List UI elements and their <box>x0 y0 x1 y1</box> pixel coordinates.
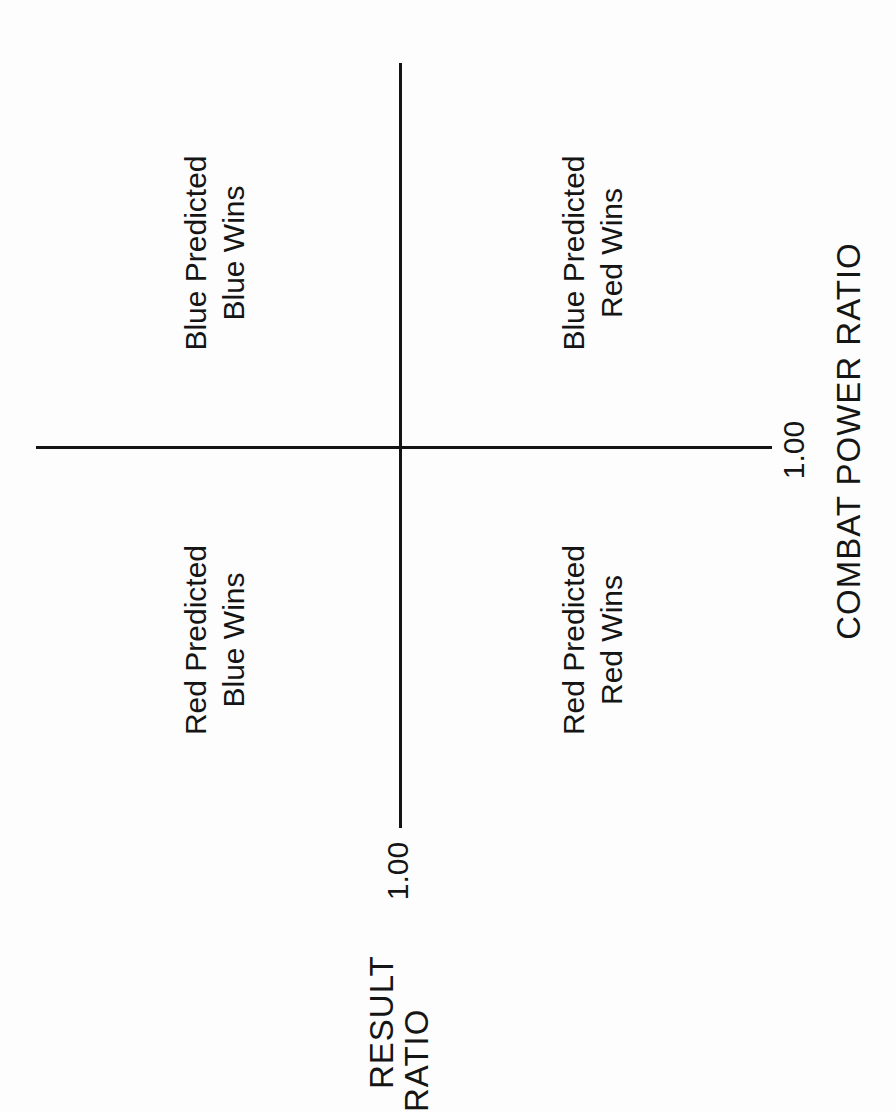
quadrant-top-right-line2: Red Wins <box>593 133 631 373</box>
quadrant-bottom-right-line2: Red Wins <box>593 520 631 760</box>
quadrant-top-left-label: Blue Predicted Blue Wins <box>177 133 253 373</box>
quadrant-bottom-left-line2: Blue Wins <box>215 520 253 760</box>
vertical-axis-title-line2: RATIO <box>399 972 435 1112</box>
quadrant-bottom-right-line1: Red Predicted <box>555 520 593 760</box>
quadrant-bottom-left-label: Red Predicted Blue Wins <box>177 520 253 760</box>
vertical-axis-line <box>399 63 402 828</box>
quadrant-bottom-right-label: Red Predicted Red Wins <box>555 520 631 760</box>
quadrant-top-left-line2: Blue Wins <box>215 133 253 373</box>
horizontal-axis-tick-label: 1.00 <box>778 415 810 485</box>
vertical-axis-title-line1: RESULT <box>364 949 400 1089</box>
horizontal-axis-line <box>36 446 772 449</box>
quadrant-top-right-line1: Blue Predicted <box>555 133 593 373</box>
vertical-axis-tick-label: 1.00 <box>382 836 414 906</box>
quadrant-top-right-label: Blue Predicted Red Wins <box>555 133 631 373</box>
quadrant-bottom-left-line1: Red Predicted <box>177 520 215 760</box>
quadrant-top-left-line1: Blue Predicted <box>177 133 215 373</box>
horizontal-axis-title: COMBAT POWER RATIO <box>831 206 867 676</box>
